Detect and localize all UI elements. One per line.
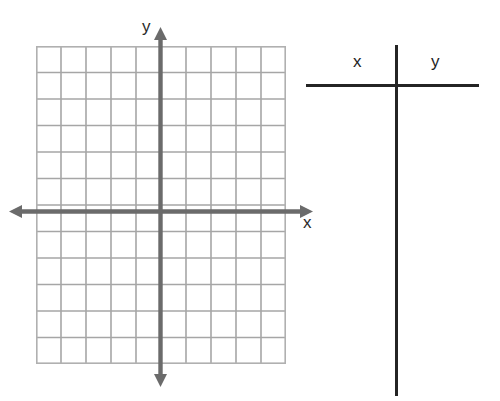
table-column-header-x: x [353,53,362,70]
x-axis-left-arrow-icon [9,205,22,218]
y-axis-down-arrow-icon [154,374,167,387]
table-header-divider [306,84,479,87]
xy-table-panel: x y [300,0,500,401]
table-column-header-y: y [431,53,440,70]
y-axis-label: y [142,18,151,35]
grid-area [36,46,286,364]
grid-lines [36,46,286,364]
y-axis-up-arrow-icon [154,27,167,40]
table-empty-body[interactable] [306,88,479,396]
worksheet-canvas: y x x y [0,0,500,401]
graph-panel: y x [0,0,330,401]
